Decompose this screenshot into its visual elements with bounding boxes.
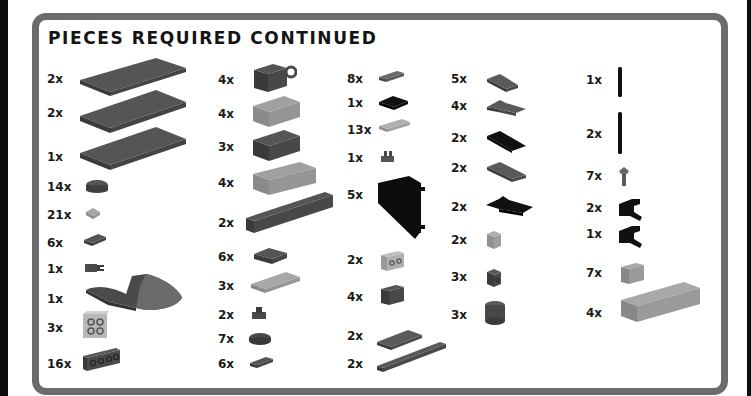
piece-quantity: 4x bbox=[451, 99, 467, 113]
brick-studs-side-icon bbox=[82, 310, 110, 340]
piece-quantity: 5x bbox=[347, 188, 363, 202]
plate-2x2-icon bbox=[253, 246, 289, 266]
piece-quantity: 1x bbox=[347, 96, 363, 110]
brick-2x4-icon bbox=[252, 128, 302, 162]
piece-quantity: 14x bbox=[47, 180, 71, 194]
piece-quantity: 2x bbox=[451, 200, 467, 214]
piece-quantity: 4x bbox=[218, 73, 234, 87]
piece-quantity: 2x bbox=[347, 329, 363, 343]
plate-2x2-black-icon bbox=[378, 95, 410, 111]
plate-1x1-icon bbox=[85, 207, 101, 219]
brick-1x2-studs-side-icon bbox=[380, 250, 406, 272]
plate-1x2-icon bbox=[83, 233, 107, 247]
tile-2x4-icon bbox=[250, 270, 302, 296]
piece-quantity: 1x bbox=[347, 151, 363, 165]
page-edge-right bbox=[747, 0, 751, 396]
brick-round-icon bbox=[484, 300, 506, 326]
piece-quantity: 4x bbox=[218, 107, 234, 121]
piece-quantity: 6x bbox=[218, 357, 234, 371]
wedge-plate-icon bbox=[486, 73, 520, 93]
piece-quantity: 2x bbox=[347, 357, 363, 371]
clip-bracket-icon bbox=[618, 225, 644, 249]
piece-quantity: 2x bbox=[218, 308, 234, 322]
page-title: PIECES REQUIRED CONTINUED bbox=[48, 28, 378, 48]
tile-1x3-icon bbox=[378, 118, 412, 134]
piece-quantity: 21x bbox=[47, 208, 71, 222]
clip-bracket-icon bbox=[618, 198, 644, 222]
piece-quantity: 8x bbox=[347, 72, 363, 86]
piece-quantity: 3x bbox=[451, 270, 467, 284]
brick-2x6-icon bbox=[620, 280, 702, 324]
piece-quantity: 3x bbox=[47, 321, 63, 335]
piece-quantity: 13x bbox=[347, 123, 371, 137]
panel-wedge-black-icon bbox=[377, 175, 429, 243]
piece-quantity: 3x bbox=[218, 279, 234, 293]
piece-quantity: 5x bbox=[451, 72, 467, 86]
brick-1x2-icon bbox=[380, 284, 406, 306]
piece-quantity: 7x bbox=[586, 266, 602, 280]
plate-round-icon bbox=[85, 178, 109, 194]
piece-quantity: 4x bbox=[218, 176, 234, 190]
piece-quantity: 1x bbox=[47, 292, 63, 306]
piece-quantity: 2x bbox=[451, 233, 467, 247]
piece-quantity: 3x bbox=[218, 140, 234, 154]
piece-quantity: 1x bbox=[47, 150, 63, 164]
brick-1x1-side-stud-icon bbox=[486, 268, 502, 288]
plate-clip-small-icon bbox=[380, 150, 396, 164]
tile-round-icon bbox=[248, 332, 272, 346]
tile-1x2-icon bbox=[249, 356, 275, 370]
piece-quantity: 2x bbox=[47, 72, 63, 86]
piece-quantity: 6x bbox=[218, 250, 234, 264]
piece-quantity: 1x bbox=[586, 73, 602, 87]
brick-pin-hole-icon bbox=[253, 62, 297, 94]
wedge-plate-notched-icon bbox=[486, 99, 528, 117]
pin-clip-icon bbox=[617, 166, 631, 188]
brick-1x10-icon bbox=[245, 188, 335, 234]
wedge-hull-icon bbox=[84, 268, 184, 314]
wedge-plate-notched-black-icon bbox=[485, 195, 535, 217]
wedge-plate-black-icon bbox=[486, 130, 528, 154]
piece-quantity: 7x bbox=[218, 332, 234, 346]
piece-quantity: 7x bbox=[586, 169, 602, 183]
piece-quantity: 16x bbox=[47, 357, 71, 371]
piece-quantity: 2x bbox=[347, 253, 363, 267]
tile-1x8-icon bbox=[376, 340, 448, 374]
piece-quantity: 3x bbox=[451, 308, 467, 322]
piece-quantity: 2x bbox=[586, 127, 602, 141]
piece-quantity: 2x bbox=[218, 216, 234, 230]
piece-quantity: 2x bbox=[586, 201, 602, 215]
piece-quantity: 4x bbox=[347, 290, 363, 304]
tile-1x2-icon bbox=[378, 70, 406, 84]
plate-clip-small-icon bbox=[250, 305, 268, 321]
page-edge-left bbox=[0, 0, 8, 396]
piece-quantity: 2x bbox=[451, 161, 467, 175]
piece-quantity: 4x bbox=[586, 306, 602, 320]
brick-1x1-icon bbox=[486, 230, 502, 250]
bar-long-icon bbox=[617, 111, 623, 155]
piece-quantity: 2x bbox=[47, 106, 63, 120]
bar-short-icon bbox=[617, 66, 623, 98]
wedge-plate-icon bbox=[486, 161, 528, 183]
piece-quantity: 2x bbox=[451, 131, 467, 145]
piece-quantity: 1x bbox=[586, 227, 602, 241]
plate-6x10-icon bbox=[78, 125, 188, 171]
piece-quantity: 6x bbox=[47, 236, 63, 250]
piece-quantity: 1x bbox=[47, 262, 63, 276]
brick-1x4-studs-side-icon bbox=[82, 346, 122, 372]
brick-2x4-icon bbox=[252, 94, 302, 128]
